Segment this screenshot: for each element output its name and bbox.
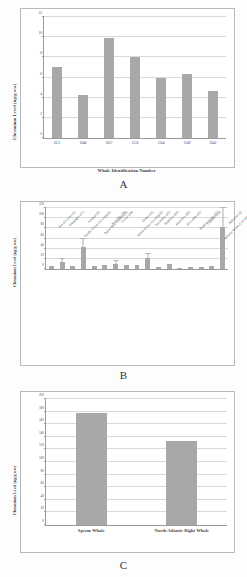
bar <box>76 413 107 525</box>
y-tick-label: 2 <box>40 112 42 116</box>
panel-a-letter: A <box>0 178 247 190</box>
y-tick-label: 12 <box>38 11 42 15</box>
panel-b-axes: 020406080100120Sea of Cortez (2)Galapago… <box>45 208 228 270</box>
error-bar <box>83 239 84 247</box>
bar <box>177 268 182 269</box>
bar <box>167 264 172 269</box>
x-category-row: Sperm WhaleNorth Atlantic Right Whale <box>46 525 227 533</box>
y-tick-label: 60 <box>41 481 44 485</box>
panel-b: Chromium Level (ng/g ww) 020406080100120… <box>0 197 247 387</box>
y-tick-label: 0 <box>42 263 44 267</box>
bar-slot <box>132 208 143 269</box>
bar <box>145 258 150 269</box>
x-category-label: 1657 <box>96 141 122 145</box>
bar-slot <box>96 17 122 138</box>
panel-b-y-axis-title: Chromium Level (ng/g ww) <box>12 238 17 287</box>
y-tick-label: 40 <box>41 494 44 498</box>
error-bar-cap <box>81 238 86 239</box>
y-tick-label: 80 <box>41 469 44 473</box>
y-tick-label: 60 <box>41 233 44 237</box>
panel-b-letter: B <box>0 369 247 381</box>
panel-c-axes: 020406080100120140160180200Sperm WhaleNo… <box>45 399 227 526</box>
y-tick-label: 0 <box>40 132 42 136</box>
x-category-label: 1646 <box>70 141 96 145</box>
bar <box>52 67 63 138</box>
error-bar <box>222 208 223 227</box>
error-bar <box>115 261 116 264</box>
x-category-label: 1564 <box>148 141 174 145</box>
panel-c-y-axis-title: Chromium Level (ng/g ww) <box>12 466 17 515</box>
bar <box>130 57 141 138</box>
y-tick-label: 200 <box>39 393 44 397</box>
panel-a-plot-frame: 0246810121611164616571516156412492642 <box>20 8 235 168</box>
error-bar-cap <box>220 207 225 208</box>
bar <box>156 267 161 269</box>
bar-slot <box>46 399 137 525</box>
error-bar <box>62 259 63 262</box>
y-tick-label: 10 <box>38 31 42 35</box>
bar <box>81 247 86 269</box>
x-category-label: 1611 <box>44 141 70 145</box>
error-bar-cap <box>145 253 150 254</box>
y-tick-label: 0 <box>42 519 44 523</box>
bar-series <box>44 17 226 138</box>
x-category-label: 2642 <box>200 141 226 145</box>
y-tick-label: 120 <box>39 443 44 447</box>
y-tick-label: 120 <box>39 202 44 206</box>
y-tick-label: 8 <box>40 51 42 55</box>
bar-slot <box>122 17 148 138</box>
y-tick-label: 6 <box>40 72 42 76</box>
bar <box>104 38 115 138</box>
bar <box>92 266 97 269</box>
bar <box>209 266 214 269</box>
x-category-label: 1249 <box>174 141 200 145</box>
panel-a: Chromium Level (ng/g ww) 024681012161116… <box>0 0 247 197</box>
y-tick-label: 160 <box>39 418 44 422</box>
bar <box>60 262 65 269</box>
y-tick-label: 4 <box>40 92 42 96</box>
error-bar <box>147 254 148 258</box>
bar-slot <box>46 208 57 269</box>
bar <box>49 266 54 269</box>
x-category-label: North Atlantic Right Whale <box>137 528 228 533</box>
bar-slot <box>137 399 228 525</box>
y-tick-label: 20 <box>41 253 44 257</box>
bar-series <box>46 399 227 525</box>
bar <box>188 267 193 269</box>
x-category-row: 1611164616571516156412492642 <box>44 138 226 145</box>
panel-c: Chromium Level (ng/g ww) 020406080100120… <box>0 387 247 577</box>
bar <box>166 441 197 525</box>
y-tick-label: 100 <box>39 212 44 216</box>
y-tick-label: 100 <box>39 456 44 460</box>
y-tick-label: 40 <box>41 243 44 247</box>
y-tick-label: 140 <box>39 431 44 435</box>
y-tick-label: 20 <box>41 506 44 510</box>
bar <box>102 265 107 269</box>
error-bar-cap <box>113 260 118 261</box>
bar <box>199 267 204 269</box>
panel-a-x-axis-title: Whale Identification Number <box>20 168 233 173</box>
panel-b-plot-frame: 020406080100120Sea of Cortez (2)Galapago… <box>20 201 235 366</box>
panel-c-letter: C <box>0 559 247 571</box>
y-tick-label: 180 <box>39 406 44 410</box>
bar <box>124 265 129 269</box>
bar <box>208 91 219 138</box>
error-bar-cap <box>60 258 65 259</box>
panel-a-y-axis-title: Chromium Level (ng/g ww) <box>12 84 17 140</box>
bar-slot <box>70 17 96 138</box>
figure-container: Chromium Level (ng/g ww) 024681012161116… <box>0 0 247 577</box>
panel-a-axes: 0246810121611164616571516156412492642 <box>43 17 226 139</box>
bar <box>135 265 140 269</box>
bar-slot <box>200 17 226 138</box>
bar-slot <box>148 17 174 138</box>
bar <box>220 227 225 269</box>
bar <box>78 95 89 138</box>
x-category-label: Sperm Whale <box>46 528 137 533</box>
bar <box>156 78 167 139</box>
bar-slot <box>174 17 200 138</box>
bar-slot <box>44 17 70 138</box>
bar <box>113 264 118 269</box>
y-tick-label: 80 <box>41 222 44 226</box>
panel-c-plot-frame: 020406080100120140160180200Sperm WhaleNo… <box>20 391 235 553</box>
bar <box>182 74 193 138</box>
